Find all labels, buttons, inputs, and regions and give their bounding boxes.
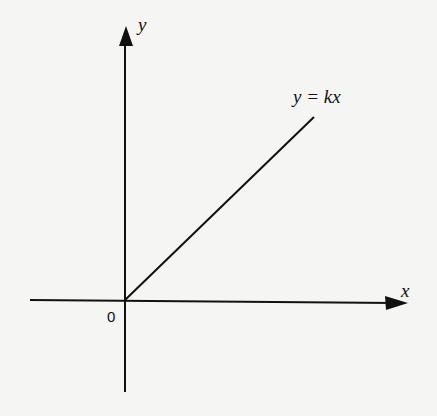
x-axis-label: x [401, 280, 409, 302]
x-axis [30, 300, 395, 303]
y-axis-label: y [138, 14, 146, 36]
line-y-equals-kx [125, 117, 314, 300]
coordinate-plane [0, 0, 437, 416]
origin-label: 0 [107, 308, 115, 325]
y-axis-arrow-icon [119, 26, 133, 46]
line-equation-label: y = kx [293, 86, 341, 108]
